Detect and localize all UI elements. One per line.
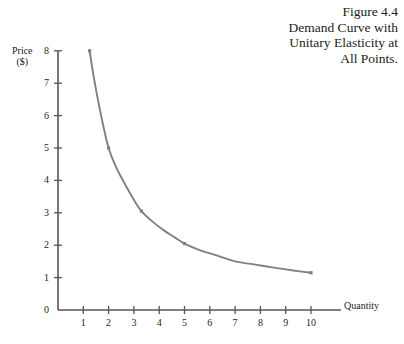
demand-curve-group	[90, 51, 311, 273]
x-tick-label: 4	[151, 317, 167, 328]
x-tick-label: 1	[75, 317, 91, 328]
demand-curve-path	[90, 51, 311, 273]
data-point-marker	[309, 271, 312, 274]
data-point-marker	[107, 146, 110, 149]
y-tick-label: 2	[37, 239, 49, 250]
x-tick-label: 6	[202, 317, 218, 328]
x-tick-label: 8	[252, 317, 268, 328]
x-tick-label: 5	[177, 317, 193, 328]
y-tick-label: 6	[37, 110, 49, 121]
x-tick-label: 10	[303, 317, 319, 328]
data-point-marker	[88, 49, 91, 52]
demand-curve-chart	[0, 0, 404, 344]
data-point-marker	[183, 242, 186, 245]
x-tick-label: 9	[278, 317, 294, 328]
y-tick-label: 4	[37, 174, 49, 185]
x-tick-label: 2	[101, 317, 117, 328]
y-tick-label: 1	[37, 272, 49, 283]
y-tick-label: 0	[37, 304, 49, 315]
y-tick-label: 5	[37, 142, 49, 153]
x-tick-label: 3	[126, 317, 142, 328]
data-point-marker	[140, 210, 143, 213]
y-tick-label: 7	[37, 77, 49, 88]
y-tick-label: 8	[37, 45, 49, 56]
figure-page: Figure 4.4 Demand Curve with Unitary Ela…	[0, 0, 404, 344]
y-tick-label: 3	[37, 207, 49, 218]
x-tick-label: 7	[227, 317, 243, 328]
demand-curve-markers	[88, 49, 313, 274]
